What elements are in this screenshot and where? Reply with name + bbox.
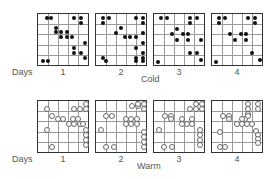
filled-dot-marker	[195, 51, 199, 55]
filled-dot-marker	[101, 16, 105, 20]
grid-line	[38, 142, 88, 143]
filled-dot-marker	[165, 16, 169, 20]
grid-line	[154, 55, 204, 56]
filled-dot-marker	[41, 59, 45, 63]
filled-dot-marker	[253, 16, 257, 20]
grid-line	[58, 14, 59, 65]
grid-line	[212, 45, 262, 46]
cold-panel-day-2	[95, 13, 147, 66]
open-circle-marker	[245, 113, 251, 119]
filled-dot-marker	[134, 16, 138, 20]
open-circle-marker	[103, 144, 109, 150]
open-circle-marker	[255, 140, 261, 146]
filled-dot-marker	[170, 32, 174, 36]
warm-panel-day-1	[37, 100, 89, 153]
open-circle-marker	[44, 127, 50, 133]
open-circle-marker	[168, 116, 174, 122]
open-circle-marker	[141, 144, 147, 150]
filled-dot-marker	[134, 59, 138, 63]
filled-dot-marker	[186, 38, 190, 42]
warm-day-number-1: 1	[60, 154, 65, 164]
filled-dot-marker	[199, 58, 203, 62]
filled-dot-marker	[65, 35, 69, 39]
grid-line	[38, 55, 88, 56]
filled-dot-marker	[119, 26, 123, 30]
grid-line	[222, 14, 223, 65]
grid-line	[212, 111, 262, 112]
filled-dot-marker	[228, 32, 232, 36]
filled-dot-marker	[107, 16, 111, 20]
filled-dot-marker	[49, 16, 53, 20]
filled-dot-marker	[156, 60, 160, 64]
filled-dot-marker	[141, 59, 145, 63]
grid-line	[174, 101, 175, 152]
filled-dot-marker	[101, 21, 105, 25]
filled-dot-marker	[244, 38, 248, 42]
grid-line	[58, 101, 59, 152]
open-circle-marker	[49, 144, 55, 150]
grid-line	[96, 34, 146, 35]
filled-dot-marker	[246, 16, 250, 20]
filled-dot-marker	[104, 59, 108, 63]
cold-days-label: Days	[12, 67, 33, 77]
grid-line	[126, 14, 127, 65]
grid-line	[116, 14, 117, 65]
filled-dot-marker	[159, 16, 163, 20]
open-circle-marker	[217, 129, 223, 135]
grid-line	[116, 101, 117, 152]
grid-line	[96, 111, 146, 112]
filled-dot-marker	[65, 30, 69, 34]
grid-line	[96, 142, 146, 143]
filled-dot-marker	[217, 21, 221, 25]
filled-dot-marker	[258, 58, 262, 62]
grid-line	[38, 45, 88, 46]
open-circle-marker	[169, 144, 175, 150]
cold-day-number-2: 2	[118, 67, 123, 77]
filled-dot-marker	[141, 21, 145, 25]
grid-line	[212, 34, 262, 35]
filled-dot-marker	[46, 59, 50, 63]
cold-panel-day-1	[37, 13, 89, 66]
cold-day-number-3: 3	[176, 67, 181, 77]
filled-dot-marker	[72, 46, 76, 50]
grid-line	[96, 132, 146, 133]
filled-dot-marker	[239, 32, 243, 36]
filled-dot-marker	[134, 46, 138, 50]
filled-dot-marker	[59, 35, 63, 39]
filled-dot-marker	[199, 38, 203, 42]
grid-line	[154, 34, 204, 35]
grid-line	[154, 45, 204, 46]
filled-dot-marker	[79, 51, 83, 55]
open-circle-marker	[222, 144, 228, 150]
filled-dot-marker	[244, 32, 248, 36]
open-circle-marker	[135, 101, 141, 107]
grid-line	[212, 55, 262, 56]
filled-dot-marker	[188, 16, 192, 20]
filled-dot-marker	[181, 32, 185, 36]
grid-line	[68, 14, 69, 65]
warm-panel-day-3	[153, 100, 205, 153]
filled-dot-marker	[233, 38, 237, 42]
grid-line	[96, 45, 146, 46]
cold-panel-day-4	[211, 13, 263, 66]
filled-dot-marker	[214, 60, 218, 64]
open-circle-marker	[189, 121, 195, 127]
filled-dot-marker	[195, 16, 199, 20]
filled-dot-marker	[141, 16, 145, 20]
cold-day-number-1: 1	[60, 67, 65, 77]
filled-dot-marker	[223, 16, 227, 20]
open-circle-marker	[44, 106, 50, 112]
grid-line	[184, 14, 185, 65]
cold-day-number-4: 4	[234, 67, 239, 77]
open-circle-marker	[197, 142, 203, 148]
cold-condition-label: Cold	[141, 74, 160, 84]
filled-dot-marker	[141, 51, 145, 55]
open-circle-marker	[249, 121, 255, 127]
open-circle-marker	[83, 106, 89, 112]
filled-dot-marker	[253, 21, 257, 25]
filled-dot-marker	[59, 30, 63, 34]
warm-day-number-2: 2	[118, 154, 123, 164]
filled-dot-marker	[188, 21, 192, 25]
open-circle-marker	[226, 116, 232, 122]
filled-dot-marker	[79, 16, 83, 20]
